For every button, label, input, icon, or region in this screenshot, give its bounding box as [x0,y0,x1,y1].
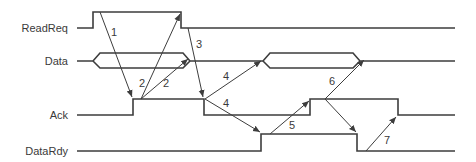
waveform-datardy [77,134,455,151]
signal-label-data: Data [45,55,69,67]
arrow-7 [366,117,396,151]
arrow-label-2a: 2 [139,77,145,89]
signal-label-readreq: ReadReq [22,22,68,34]
waveform-readreq [77,12,455,28]
arrow-label-5: 5 [289,119,295,131]
arrow-1 [100,12,132,97]
arrow-2a [141,14,180,99]
arrow-label-7: 7 [384,134,390,146]
signal-label-datardy: DataRdy [25,145,68,157]
arrow-4a [205,61,261,99]
waveform-data [77,53,455,68]
arrow-label-4b: 4 [223,97,229,109]
arrow-label-2b: 2 [163,77,169,89]
arrow-6b [325,99,356,132]
arrow-label-3: 3 [196,38,202,50]
signal-label-ack: Ack [50,109,69,121]
timing-diagram: ReadReq Data Ack DataRdy 1 2 2 3 4 4 5 6… [0,0,476,162]
arrow-label-6: 6 [329,75,335,87]
arrow-label-4a: 4 [223,70,229,82]
arrow-label-1: 1 [111,26,117,38]
waveform-ack [77,99,455,115]
